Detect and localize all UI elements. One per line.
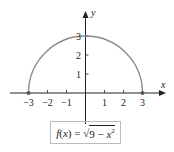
x-tick-label: 1	[102, 97, 107, 108]
y-tick-label: 3	[76, 31, 81, 42]
x-tick-label: 2	[121, 97, 126, 108]
y-axis-label: y	[90, 7, 96, 18]
x-axis-arrow-icon	[159, 90, 166, 96]
y-tick-label: 1	[76, 69, 81, 80]
x-axis-label: x	[160, 79, 166, 90]
radicand-exp: 2	[111, 127, 115, 135]
x-tick-label: −1	[61, 97, 72, 108]
formula-x: x	[63, 127, 68, 139]
formula-equals: =	[71, 127, 83, 139]
y-axis-arrow-icon	[83, 11, 89, 18]
x-tick-label: −2	[42, 97, 53, 108]
y-tick-label: 2	[76, 50, 81, 61]
x-tick-label: −3	[23, 97, 34, 108]
radicand: 9 − x2	[89, 125, 115, 140]
x-tick-label: 3	[140, 97, 145, 108]
endpoint-left	[27, 91, 31, 95]
endpoint-right	[141, 91, 145, 95]
formula-box: f(x) = √9 − x2	[50, 121, 121, 144]
radicand-const: 9 −	[89, 128, 106, 140]
formula-f: f	[56, 127, 59, 139]
